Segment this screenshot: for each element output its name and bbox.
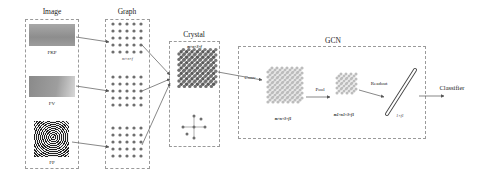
diagram-graphics: (function(){ const ns="http://www.w3.org… <box>0 0 481 177</box>
readout-vector <box>387 70 415 114</box>
